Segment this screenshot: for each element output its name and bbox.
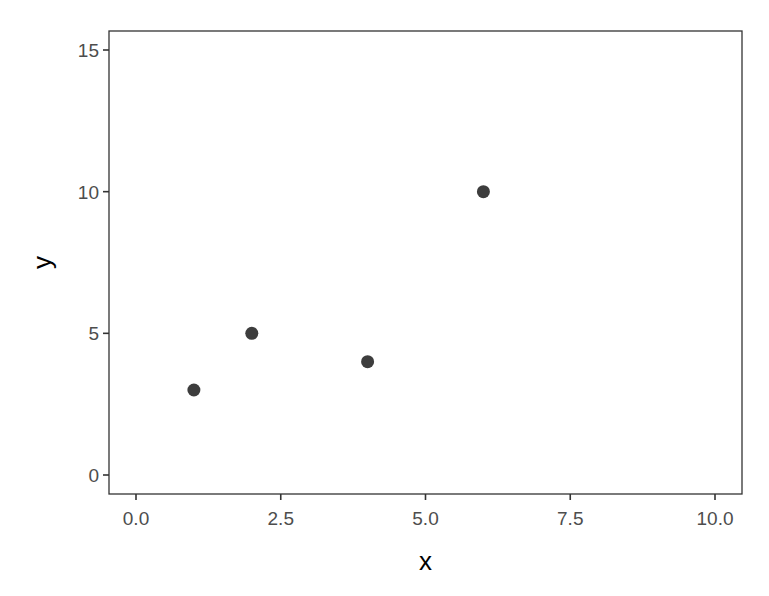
y-axis: 051015 bbox=[78, 40, 109, 486]
data-point bbox=[245, 327, 258, 340]
x-tick-label: 7.5 bbox=[557, 508, 583, 529]
plot-panel bbox=[109, 31, 742, 494]
y-axis-title: y bbox=[27, 256, 57, 269]
y-tick-label: 0 bbox=[88, 465, 99, 486]
data-point bbox=[361, 355, 374, 368]
y-tick-label: 5 bbox=[88, 323, 99, 344]
y-tick-label: 10 bbox=[78, 182, 99, 203]
x-axis: 0.02.55.07.510.0 bbox=[123, 494, 734, 529]
x-tick-label: 10.0 bbox=[697, 508, 734, 529]
x-tick-label: 2.5 bbox=[268, 508, 294, 529]
data-point bbox=[187, 384, 200, 397]
data-point bbox=[477, 185, 490, 198]
y-tick-label: 15 bbox=[78, 40, 99, 61]
scatter-chart: 051015 0.02.55.07.510.0 x y bbox=[0, 0, 769, 596]
x-tick-label: 5.0 bbox=[412, 508, 438, 529]
x-tick-label: 0.0 bbox=[123, 508, 149, 529]
x-axis-title: x bbox=[419, 546, 432, 576]
